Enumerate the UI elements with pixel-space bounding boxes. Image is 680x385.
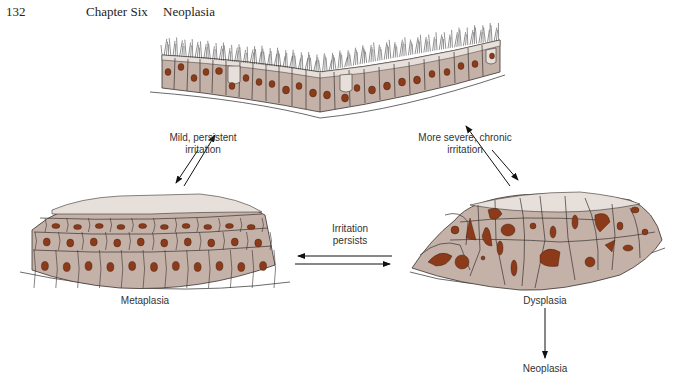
label-metaplasia: Metaplasia: [115, 295, 175, 307]
cutoff-caption-text: — — — — — — — — — — — — — — — — — — — — …: [80, 380, 680, 385]
label-irritation-persists: Irritation persists: [310, 223, 390, 247]
dysplasia-illustration: [410, 192, 665, 290]
label-mild-irritation: Mild, persistent irritation: [148, 132, 258, 156]
neoplasia-progression-diagram: [0, 0, 680, 385]
normal-epithelium-illustration: [150, 23, 505, 118]
metaplasia-illustration: [20, 194, 290, 289]
label-severe-irritation: More severe, chronic irritation: [395, 132, 535, 156]
label-dysplasia: Dysplasia: [515, 295, 575, 307]
label-neoplasia: Neoplasia: [515, 363, 575, 375]
